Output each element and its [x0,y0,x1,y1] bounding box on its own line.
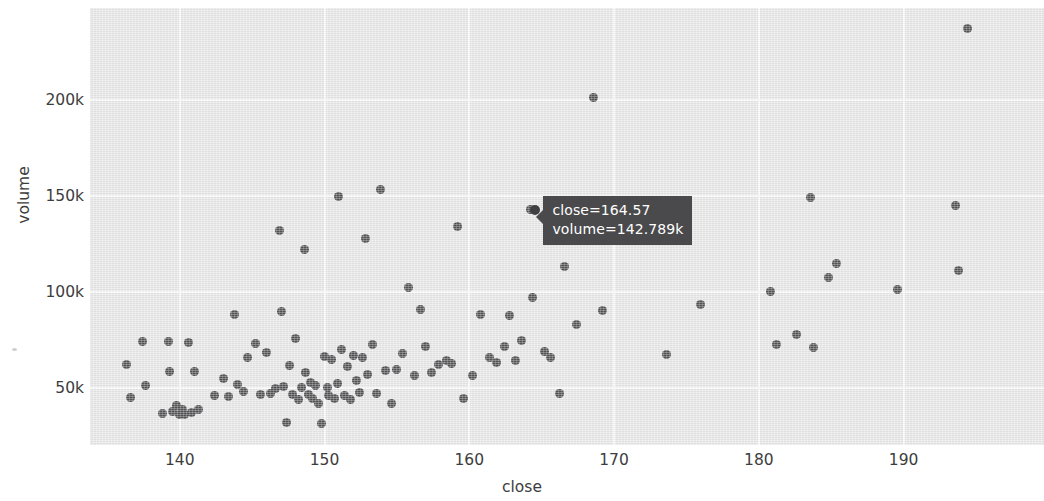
data-point[interactable] [453,222,462,231]
y-axis-title: volume [15,155,33,235]
data-point[interactable] [275,226,284,235]
data-point[interactable] [387,399,396,408]
data-point[interactable] [141,381,150,390]
data-point[interactable] [951,201,960,210]
data-point[interactable] [427,368,436,377]
data-point[interactable] [158,409,167,418]
data-point[interactable] [476,310,485,319]
data-point[interactable] [696,300,705,309]
data-point[interactable] [792,330,801,339]
y-axis-tick-label: 150k [0,188,84,204]
data-point[interactable] [372,389,381,398]
data-point[interactable] [282,418,291,427]
gridline-vertical [903,8,905,445]
data-point[interactable] [190,367,199,376]
data-point[interactable] [122,360,131,369]
data-point[interactable] [806,193,815,202]
data-point[interactable] [352,376,361,385]
data-point[interactable] [164,337,173,346]
data-point[interactable] [368,340,377,349]
data-point[interactable] [572,320,581,329]
data-point[interactable] [546,353,555,362]
data-point[interactable] [832,259,841,268]
data-point[interactable] [376,185,385,194]
x-axis-tick-label: 150 [310,452,340,468]
data-point[interactable] [954,266,963,275]
data-point[interactable] [555,389,564,398]
data-point[interactable] [358,353,367,362]
data-point[interactable] [327,355,336,364]
data-point[interactable] [277,307,286,316]
hover-tooltip: close=164.57 volume=142.789k [543,196,691,245]
data-point[interactable] [291,334,300,343]
data-point[interactable] [334,192,343,201]
data-point[interactable] [224,392,233,401]
data-point[interactable] [589,93,598,102]
x-axis-tick-label: 140 [165,452,195,468]
data-point[interactable] [766,287,775,296]
data-point[interactable] [560,262,569,271]
data-point[interactable] [243,353,252,362]
y-axis-tick-label: 100k [0,284,84,300]
data-point[interactable] [598,306,607,315]
data-point[interactable] [381,366,390,375]
data-point[interactable] [963,24,972,33]
data-point[interactable] [330,394,339,403]
data-point[interactable] [447,359,456,368]
x-axis-tick-label: 190 [889,452,919,468]
data-point[interactable] [337,345,346,354]
data-point[interactable] [416,305,425,314]
data-point[interactable] [361,234,370,243]
data-point[interactable] [194,405,203,414]
data-point[interactable] [256,390,265,399]
gridline-vertical [179,8,181,445]
data-point[interactable] [363,370,372,379]
data-point[interactable] [809,343,818,352]
x-axis-tick-label: 180 [744,452,774,468]
data-point[interactable] [285,361,294,370]
data-point[interactable] [230,310,239,319]
data-point[interactable] [126,393,135,402]
data-point[interactable] [500,342,509,351]
data-point[interactable] [251,339,260,348]
data-point[interactable] [300,245,309,254]
data-point[interactable] [662,350,671,359]
data-point[interactable] [311,381,320,390]
data-point[interactable] [343,362,352,371]
data-point[interactable] [517,336,526,345]
data-point[interactable] [271,384,280,393]
data-point[interactable] [262,348,271,357]
tooltip-line-volume: volume=142.789k [552,220,683,239]
tooltip-line-close: close=164.57 [552,201,683,220]
data-point[interactable] [165,367,174,376]
data-point[interactable] [468,371,477,380]
data-point[interactable] [314,399,323,408]
gridline-horizontal [90,99,1044,101]
data-point[interactable] [355,388,364,397]
data-point[interactable] [459,394,468,403]
data-point[interactable] [528,293,537,302]
data-point[interactable] [398,349,407,358]
data-point[interactable] [279,382,288,391]
data-point[interactable] [492,358,501,367]
data-point[interactable] [505,311,514,320]
data-point[interactable] [421,342,430,351]
scatter-plot-figure: close=164.57 volume=142.789k 200k150k100… [0,0,1044,501]
data-point[interactable] [893,285,902,294]
data-point[interactable] [824,273,833,282]
data-point[interactable] [239,387,248,396]
data-point[interactable] [138,337,147,346]
data-point[interactable] [333,379,342,388]
data-point[interactable] [772,340,781,349]
gridline-vertical [324,8,326,445]
data-point[interactable] [301,368,310,377]
data-point[interactable] [219,374,228,383]
data-point[interactable] [346,395,355,404]
data-point[interactable] [349,351,358,360]
data-point[interactable] [410,371,419,380]
data-point[interactable] [210,391,219,400]
data-point[interactable] [294,395,303,404]
data-point[interactable] [511,356,520,365]
data-point[interactable] [184,338,193,347]
data-point[interactable] [392,365,401,374]
